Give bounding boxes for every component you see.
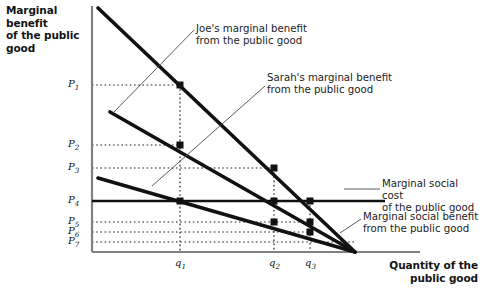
y-tick-label-p3: P3	[68, 161, 79, 175]
horizontal-guide-lines	[92, 85, 356, 242]
y-tick-label-p2: P2	[68, 138, 79, 152]
line-joe-marginal-benefit	[110, 112, 355, 252]
y-tick-label-p4: P4	[68, 194, 79, 208]
y-tick-label-p1: P1	[68, 78, 79, 92]
x-tick-label-q3: q3	[305, 257, 316, 271]
data-point-markers	[177, 82, 314, 236]
x-tick-label-q2: q2	[269, 257, 280, 271]
vertical-guide-lines	[180, 85, 310, 252]
public-good-marginal-benefit-chart: Marginal benefit of the public good Quan…	[0, 0, 482, 290]
y-tick-label-p7: P7	[68, 235, 79, 249]
x-tick-label-q1: q1	[175, 257, 186, 271]
